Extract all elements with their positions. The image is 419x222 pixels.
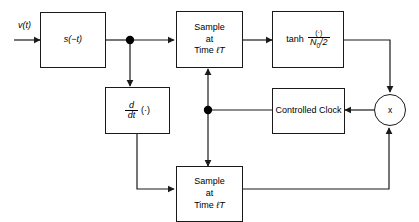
block-multiplier[interactable]: x bbox=[374, 94, 406, 126]
sample-bottom-line-1: Sample bbox=[194, 176, 225, 188]
sample-top-line-3: Time ℓT bbox=[194, 45, 225, 57]
tanh-fraction: (·) N0/2 bbox=[308, 29, 330, 50]
sample-bottom-time-variable: ℓT bbox=[216, 200, 224, 210]
tanh-expression: tanh (·) N0/2 bbox=[286, 29, 330, 50]
controlled-clock-text: Controlled Clock bbox=[275, 105, 341, 117]
tanh-function-label: tanh bbox=[286, 34, 304, 46]
block-diagram-canvas: v(t) s(−t) Sample at Time ℓT tanh (·) N0… bbox=[0, 0, 419, 222]
matched-filter-label: s(−t) bbox=[64, 34, 82, 46]
tanh-denominator: N0/2 bbox=[308, 38, 330, 50]
controlled-clock-line-1: Controlled bbox=[275, 105, 316, 115]
tanh-numerator: (·) bbox=[313, 29, 324, 37]
wire-tanh-to-multiplier bbox=[344, 40, 390, 92]
sample-bottom-line-2: at bbox=[194, 188, 225, 200]
junction-dot-a bbox=[126, 36, 134, 44]
controlled-clock-line-2: Clock bbox=[319, 105, 342, 115]
derivative-numerator: d bbox=[127, 101, 136, 110]
derivative-denominator: dt bbox=[126, 111, 138, 120]
sample-top-time-prefix: Time bbox=[194, 45, 214, 55]
sample-bottom-line-3: Time ℓT bbox=[194, 200, 225, 212]
block-sample-bottom[interactable]: Sample at Time ℓT bbox=[176, 166, 243, 222]
tanh-denominator-rest: /2 bbox=[320, 37, 328, 47]
sample-bottom-text: Sample at Time ℓT bbox=[194, 176, 225, 212]
multiplier-symbol: x bbox=[388, 105, 392, 115]
input-signal-label: v(t) bbox=[18, 20, 31, 30]
block-tanh[interactable]: tanh (·) N0/2 bbox=[272, 11, 344, 68]
derivative-fraction: d dt bbox=[125, 101, 138, 121]
block-controlled-clock[interactable]: Controlled Clock bbox=[272, 88, 345, 134]
block-derivative[interactable]: d dt (·) bbox=[105, 87, 170, 134]
wire-derivative-to-sample-bottom bbox=[137, 134, 174, 189]
derivative-argument: (·) bbox=[141, 105, 150, 117]
block-matched-filter[interactable]: s(−t) bbox=[40, 12, 106, 68]
wire-sample-bottom-to-multiplier bbox=[243, 128, 389, 189]
derivative-expression: d dt (·) bbox=[125, 101, 150, 121]
sample-top-line-2: at bbox=[194, 34, 225, 46]
sample-bottom-time-prefix: Time bbox=[194, 200, 214, 210]
sample-top-text: Sample at Time ℓT bbox=[194, 22, 225, 58]
sample-top-line-1: Sample bbox=[194, 22, 225, 34]
block-sample-top[interactable]: Sample at Time ℓT bbox=[176, 11, 243, 68]
sample-top-time-variable: ℓT bbox=[216, 45, 224, 55]
junction-dot-b bbox=[204, 106, 212, 114]
